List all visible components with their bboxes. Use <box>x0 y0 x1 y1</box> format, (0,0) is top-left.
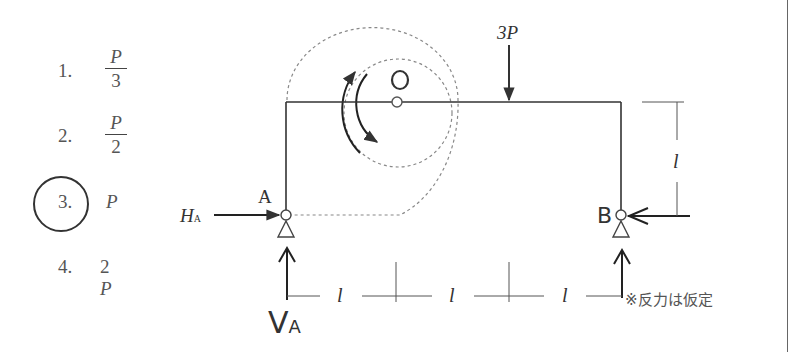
support-a-label: A <box>258 186 272 208</box>
hinge-o-label-glyph <box>392 71 408 89</box>
support-b-label: B <box>597 203 612 228</box>
pin-b <box>616 210 626 220</box>
dotted-circle-outer <box>287 28 458 215</box>
selected-answer-circle <box>34 177 88 231</box>
pin-a <box>281 210 291 220</box>
reaction-assumption-note: ※反力は仮定 <box>625 288 713 309</box>
reaction-va-label: VA <box>268 305 301 340</box>
height-dim-label: l <box>673 150 679 173</box>
span-dim-label-1: l <box>337 284 343 307</box>
reaction-ha-label: HA <box>180 205 201 227</box>
rotation-arrow-cw-icon <box>356 74 377 142</box>
support-b-triangle <box>613 221 629 237</box>
span-dim-label-2: l <box>449 284 455 307</box>
span-dim-label-3: l <box>562 284 568 307</box>
dotted-circle-inner <box>344 59 452 167</box>
right-border-line <box>787 0 788 352</box>
load-3p-label: 3P <box>497 22 518 44</box>
structural-problem: 1. P 3 2. P 2 3. P 4. 2 P <box>0 0 800 352</box>
hinge-o <box>392 97 402 107</box>
support-a-triangle <box>278 221 294 237</box>
